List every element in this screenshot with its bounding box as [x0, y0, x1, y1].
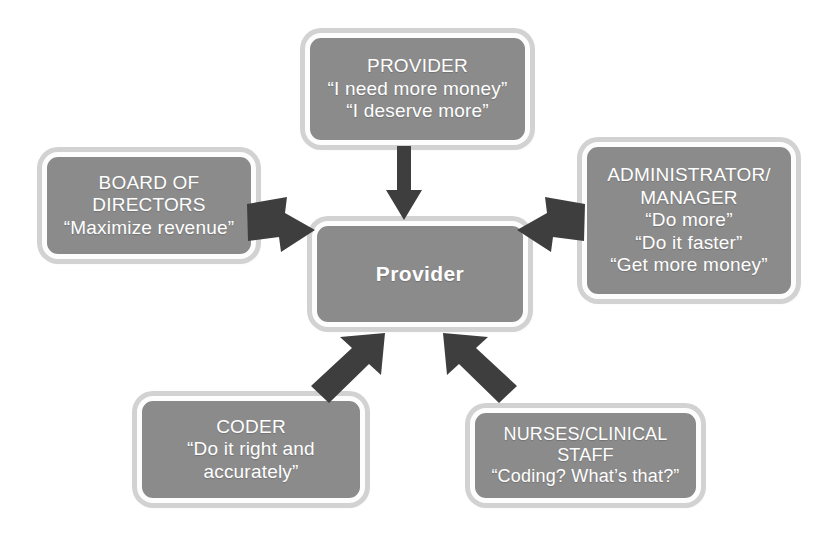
node-admin-line-1: ADMINISTRATOR/: [607, 164, 771, 186]
node-board-line-3: “Maximize revenue”: [64, 217, 234, 239]
node-nurses-line-3: “Coding? What’s that?”: [491, 466, 679, 487]
node-coder-line-3: accurately”: [203, 461, 298, 483]
diagram-canvas: PROVIDER “I need more money” “I deserve …: [0, 0, 830, 537]
node-provider[interactable]: PROVIDER “I need more money” “I deserve …: [305, 33, 530, 145]
node-provider-line-3: “I deserve more”: [346, 100, 489, 122]
node-provider-line-1: PROVIDER: [367, 55, 468, 77]
node-board-line-1: BOARD OF: [99, 172, 200, 194]
arrow-up-right-icon-coder-to-center: [311, 333, 385, 403]
node-nurses-line-2: STAFF: [557, 445, 614, 466]
node-admin-line-4: “Do it faster”: [635, 232, 742, 254]
node-admin-line-3: “Do more”: [645, 209, 732, 231]
arrow-down-icon-provider-to-center: [386, 146, 422, 220]
node-coder[interactable]: CODER “Do it right and accurately”: [137, 396, 365, 503]
node-administrator-manager[interactable]: ADMINISTRATOR/ MANAGER “Do more” “Do it …: [582, 142, 796, 299]
node-admin-line-5: “Get more money”: [610, 254, 767, 276]
node-board-line-2: DIRECTORS: [92, 194, 205, 216]
node-coder-line-2: “Do it right and: [187, 438, 315, 460]
node-center-label: Provider: [376, 262, 464, 287]
node-center-provider[interactable]: Provider: [312, 221, 528, 327]
arrow-right-icon-board-to-center: [247, 196, 315, 254]
node-board-of-directors[interactable]: BOARD OF DIRECTORS “Maximize revenue”: [42, 152, 256, 259]
node-nurses-line-1: NURSES/CLINICAL: [503, 424, 667, 445]
arrow-up-left-icon-nurses-to-center: [443, 333, 517, 403]
node-admin-line-2: MANAGER: [640, 187, 737, 209]
node-provider-line-2: “I need more money”: [327, 78, 507, 100]
node-nurses-clinical-staff[interactable]: NURSES/CLINICAL STAFF “Coding? What’s th…: [470, 408, 701, 503]
node-coder-line-1: CODER: [216, 416, 286, 438]
